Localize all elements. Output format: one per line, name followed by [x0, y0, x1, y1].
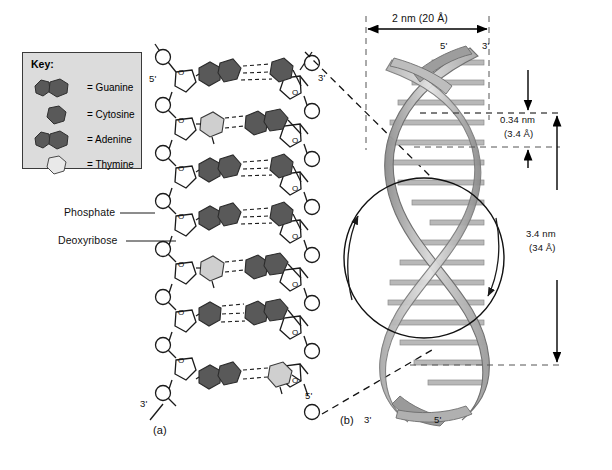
ladder-right-top-prime-label: 3' [318, 72, 325, 83]
rise-dimension-label-line1: 0.34 nm [500, 114, 535, 125]
panel-b-helix [344, 46, 504, 426]
pitch-dimension-label-line2: (34 Å) [529, 242, 555, 253]
svg-text:O: O [292, 136, 298, 145]
pitch-dimension-label-line1: 3.4 nm [526, 228, 556, 239]
phosphate-circle [305, 344, 320, 359]
phosphate-circle [156, 146, 171, 161]
helix-bottom-left-prime-label: 3' [364, 414, 371, 425]
helix-rung [428, 380, 484, 385]
direction-arrow-right [488, 218, 499, 296]
svg-text:O: O [178, 68, 184, 77]
base-purine-left [199, 62, 221, 86]
panel-b-label: (b) [340, 414, 354, 426]
connector-bottom [322, 350, 432, 414]
deoxyribose-label: Deoxyribose [58, 234, 117, 246]
helix-top-right-prime-label: 3' [482, 40, 489, 51]
svg-text:O: O [178, 356, 184, 365]
base-purine-left-ring2 [218, 203, 241, 226]
phosphate-circle [305, 405, 320, 420]
base-purine-left [199, 158, 221, 182]
ladder-left-top-prime-label: 5' [149, 73, 156, 84]
hydrogen-bonds [225, 260, 244, 272]
helix-rung [430, 220, 484, 225]
svg-text:O: O [292, 88, 298, 97]
phosphate-circle [156, 242, 171, 257]
rise-dimension-label-line2: (3.4 Å) [504, 128, 533, 139]
ladder-right-bottom-prime-label: 5' [305, 390, 312, 401]
phosphate-circle [305, 56, 320, 71]
base-purine-left [199, 365, 221, 389]
ladder-left-bottom-prime-label: 3' [140, 398, 147, 409]
phosphate-circle [305, 296, 320, 311]
svg-text:O: O [178, 212, 184, 221]
phosphate-circle [156, 290, 171, 305]
phosphate-label: Phosphate [64, 206, 115, 218]
hydrogen-bonds [221, 304, 245, 322]
phosphate-circle [305, 104, 320, 119]
helix-rung [390, 280, 484, 285]
hydrogen-bonds [241, 208, 272, 224]
svg-text:O: O [178, 164, 184, 173]
helix-top-left-prime-label: 5' [440, 40, 447, 51]
svg-text:O: O [292, 328, 298, 337]
hydrogen-bonds [243, 368, 268, 379]
base-pair-row [196, 362, 301, 394]
left-phosphate-group [156, 50, 171, 401]
phosphate-circle [156, 338, 171, 353]
panel-a-ladder: OOO OOO O [120, 44, 320, 420]
phosphate-circle [156, 194, 171, 209]
phosphate-circle [156, 50, 171, 65]
hydrogen-bonds [241, 160, 272, 176]
callout-leaders [120, 213, 176, 241]
base-purine-left-ring2 [218, 362, 241, 385]
dna-structure-figure: Key: = Guanine = Cytosine [0, 0, 612, 470]
hydrogen-bonds [241, 64, 272, 80]
phosphate-circle [156, 386, 171, 401]
phosphate-circle [305, 200, 320, 215]
svg-text:O: O [292, 232, 298, 241]
svg-text:O: O [178, 308, 184, 317]
base-purine-left [199, 206, 221, 230]
svg-text:O: O [292, 184, 298, 193]
helix-rung [398, 180, 484, 185]
base-purine-left [199, 302, 221, 326]
base-pyrimidine-right [270, 202, 293, 226]
panel-a-label: (a) [153, 424, 167, 436]
base-pyrimidine-left [200, 256, 224, 281]
phosphate-circle [156, 98, 171, 113]
helix-rung [390, 160, 484, 165]
svg-text:O: O [292, 280, 298, 289]
base-purine-left-ring2 [218, 59, 241, 82]
helix-bottom-right-prime-label: 5' [434, 414, 441, 425]
base-pyrimidine-left [200, 112, 224, 137]
base-pyrimidine-right [270, 154, 293, 178]
helix-rung [414, 360, 484, 365]
helix-rung [400, 340, 484, 345]
hydrogen-bonds [225, 116, 244, 128]
svg-text:O: O [178, 260, 184, 269]
phosphate-circle [305, 152, 320, 167]
svg-text:O: O [178, 116, 184, 125]
base-purine-left-ring2 [218, 155, 241, 178]
right-phosphate-group [305, 56, 320, 420]
base-pyrimidine-right [270, 58, 293, 82]
phosphate-circle [305, 248, 320, 263]
width-dimension-label: 2 nm (20 Å) [392, 12, 448, 24]
